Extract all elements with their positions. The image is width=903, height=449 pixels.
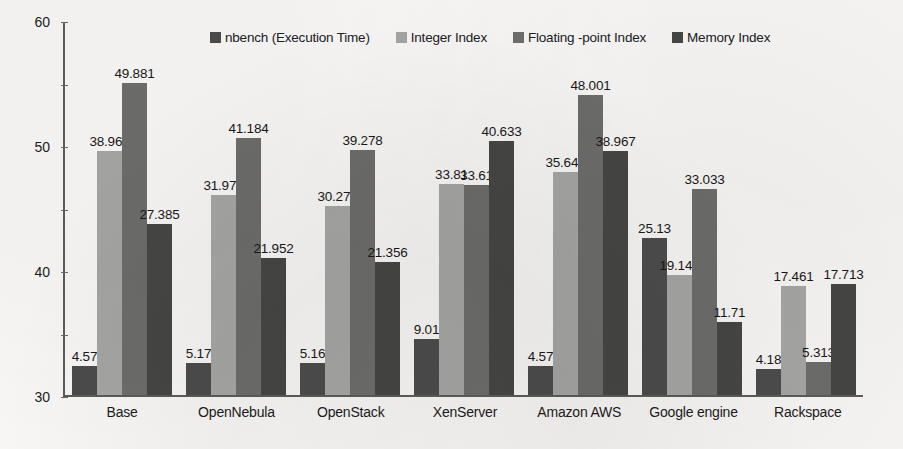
bar-group: 4.5738.96749.88127.385 xyxy=(65,22,179,395)
legend-swatch-icon-memory xyxy=(672,32,683,43)
bar-value-label: 33.033 xyxy=(684,172,724,187)
bar: 33.81 xyxy=(439,184,464,395)
bar-value-label: 9.01 xyxy=(414,322,439,337)
bar: 21.952 xyxy=(261,258,286,395)
bar: 27.385 xyxy=(147,224,172,395)
legend-item-floating-point-index: Floating -point Index xyxy=(513,30,646,45)
y-axis-tick-label: 40 xyxy=(34,264,50,280)
bar: 38.967 xyxy=(97,151,122,395)
legend-label-floating-point: Floating -point Index xyxy=(528,30,646,45)
legend-label-memory: Memory Index xyxy=(687,30,770,45)
bar: 21.356 xyxy=(375,262,400,395)
bar: 4.57 xyxy=(528,366,553,395)
x-axis-category-label: Amazon AWS xyxy=(522,404,636,430)
bar: 5.17 xyxy=(186,363,211,395)
y-axis-tick: 0 xyxy=(61,397,68,398)
plot-area: 0102030405060 4.5738.96749.88127.3855.17… xyxy=(63,22,863,397)
legend-swatch-icon-nbench xyxy=(210,32,221,43)
legend-item-memory-index: Memory Index xyxy=(672,30,770,45)
bar-value-label: 41.184 xyxy=(228,121,268,136)
x-axis-category-label: XenServer xyxy=(408,404,522,430)
bar-group: 5.1731.97741.18421.952 xyxy=(179,22,293,395)
bar: 40.633 xyxy=(489,141,514,395)
bar-value-label: 49.881 xyxy=(114,66,154,81)
bar-value-label: 17.713 xyxy=(823,267,863,282)
y-axis-tick-label: 30 xyxy=(34,389,50,405)
legend-item-integer-index: Integer Index xyxy=(396,30,487,45)
bar-groups: 4.5738.96749.88127.3855.1731.97741.18421… xyxy=(65,22,863,395)
bar-value-label: 21.356 xyxy=(367,245,407,260)
bar-value-label: 48.001 xyxy=(570,78,610,93)
bar: 41.184 xyxy=(236,138,261,395)
legend-label-integer: Integer Index xyxy=(411,30,487,45)
bar-value-label: 5.17 xyxy=(186,346,211,361)
x-axis-category-label: Google engine xyxy=(636,404,750,430)
x-axis-line xyxy=(63,395,863,397)
bar-group: 5.1630.27539.27821.356 xyxy=(293,22,407,395)
bar: 33.033 xyxy=(692,189,717,395)
bar: 17.461 xyxy=(781,286,806,395)
bar: 17.713 xyxy=(831,284,856,395)
bar-value-label: 5.16 xyxy=(300,346,325,361)
bar-value-label: 5.313 xyxy=(802,345,835,360)
bar: 39.278 xyxy=(350,150,375,395)
bar: 5.16 xyxy=(300,363,325,395)
bar-group: 4.5735.64548.00138.967 xyxy=(521,22,635,395)
bar-value-label: 39.278 xyxy=(342,133,382,148)
bar-value-label: 25.13 xyxy=(638,221,671,236)
bar: 11.71 xyxy=(717,322,742,395)
bar: 5.313 xyxy=(806,362,831,395)
bar-value-label: 21.952 xyxy=(253,241,293,256)
bar-value-label: 4.57 xyxy=(72,349,97,364)
bar: 4.18 xyxy=(756,369,781,395)
legend-item-nbench-execution-time: nbench (Execution Time) xyxy=(210,30,370,45)
bar-value-label: 17.461 xyxy=(773,269,813,284)
x-axis-category-label: Rackspace xyxy=(751,404,865,430)
bar-value-label: 33.61 xyxy=(460,168,493,183)
bar-group: 4.1817.4615.31317.713 xyxy=(749,22,863,395)
bar-value-label: 40.633 xyxy=(481,124,521,139)
bar-value-label: 11.71 xyxy=(714,305,746,320)
bar: 31.977 xyxy=(211,195,236,395)
bar-value-label: 38.967 xyxy=(595,134,635,149)
bar-group: 9.0133.8133.6140.633 xyxy=(407,22,521,395)
x-axis-category-label: OpenNebula xyxy=(179,404,293,430)
y-axis-tick-label: 60 xyxy=(34,14,50,30)
legend-label-nbench: nbench (Execution Time) xyxy=(225,30,370,45)
bar-value-label: 4.57 xyxy=(528,349,553,364)
bar: 49.881 xyxy=(122,83,147,395)
legend-swatch-icon-floating-point xyxy=(513,32,524,43)
bar: 19.144 xyxy=(667,275,692,395)
bar: 33.61 xyxy=(464,185,489,395)
x-axis-category-label: OpenStack xyxy=(294,404,408,430)
bar-value-label: 4.18 xyxy=(756,352,781,367)
x-axis-labels: BaseOpenNebulaOpenStackXenServerAmazon A… xyxy=(65,404,865,430)
bar: 30.275 xyxy=(325,206,350,395)
bar: 4.57 xyxy=(72,366,97,395)
legend-swatch-icon-integer xyxy=(396,32,407,43)
x-axis-category-label: Base xyxy=(65,404,179,430)
bar-value-label: 27.385 xyxy=(139,207,179,222)
chart-legend: nbench (Execution Time) Integer Index Fl… xyxy=(210,26,900,48)
bar-chart-figure: nbench (Execution Time) Integer Index Fl… xyxy=(0,0,903,449)
bar: 38.967 xyxy=(603,151,628,395)
y-axis-tick-label: 50 xyxy=(34,139,50,155)
bar: 35.645 xyxy=(553,172,578,395)
bar: 9.01 xyxy=(414,339,439,395)
bar-group: 25.1319.14433.03311.71 xyxy=(635,22,749,395)
